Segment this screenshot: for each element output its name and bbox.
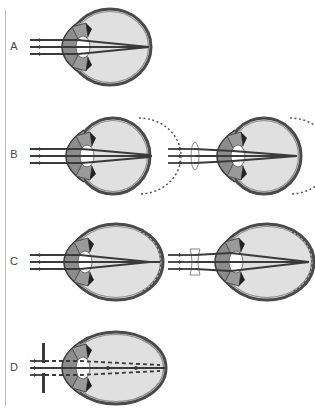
slit-upper-plate bbox=[42, 343, 45, 363]
panel-c-myopic-eye-corrected bbox=[168, 224, 314, 300]
slit-lower-plate bbox=[42, 373, 45, 393]
panel-b-hyperopic-eye-corrected bbox=[168, 118, 315, 194]
panel-d-astigmatic-eye bbox=[30, 332, 166, 404]
panel-b-hyperopic-eye bbox=[30, 118, 181, 194]
panel-a-normal-eye bbox=[30, 9, 151, 85]
panel-c-myopic-eye bbox=[30, 224, 163, 300]
eye-diagram bbox=[0, 0, 315, 410]
